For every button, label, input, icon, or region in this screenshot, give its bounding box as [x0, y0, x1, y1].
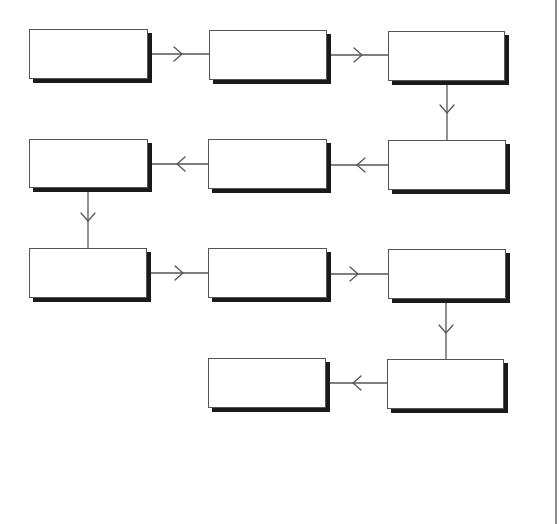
edge-n4-n5 [331, 158, 388, 172]
edge-n7-n8 [151, 266, 208, 280]
flow-box-5 [208, 139, 327, 189]
flow-box-11 [208, 358, 326, 408]
flow-box-6 [29, 139, 148, 188]
flow-box-7 [29, 248, 147, 298]
arrowhead-right-icon [354, 48, 362, 62]
arrowhead-left-icon [177, 157, 185, 171]
edge-n3-n4 [440, 85, 454, 140]
edge-n1-n2 [152, 47, 209, 61]
arrowhead-right-icon [175, 266, 183, 280]
flow-box-8 [208, 248, 327, 298]
flow-box-10 [387, 359, 504, 409]
arrowhead-left-icon [357, 158, 365, 172]
flow-box-4 [388, 140, 506, 190]
edge-n9-n10 [439, 303, 453, 359]
arrowhead-down-icon [81, 213, 95, 221]
flow-box-9 [388, 249, 506, 299]
arrowhead-down-icon [440, 105, 454, 113]
arrowhead-right-icon [350, 267, 358, 281]
edge-n10-n11 [330, 376, 387, 390]
flowchart-diagram [0, 0, 560, 524]
flow-box-1 [29, 29, 148, 79]
flow-box-3 [388, 31, 505, 81]
flow-box-2 [209, 30, 327, 80]
arrowhead-left-icon [353, 376, 361, 390]
edge-n6-n7 [81, 192, 95, 248]
edge-n5-n6 [152, 157, 208, 171]
edge-n8-n9 [331, 267, 388, 281]
page-edge-divider [555, 0, 557, 524]
arrowhead-right-icon [174, 47, 182, 61]
edge-n2-n3 [331, 48, 388, 62]
arrowhead-down-icon [439, 325, 453, 333]
